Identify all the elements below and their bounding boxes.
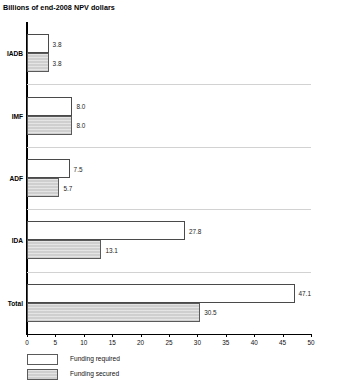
x-axis-tick-label: 25: [165, 339, 172, 346]
bar-value-label: 3.8: [53, 40, 62, 47]
bar-chart: Billions of end-2008 NPV dollars IADB3.8…: [0, 0, 346, 390]
bar-value-label: 30.5: [204, 309, 216, 316]
y-axis-category-label: IDA: [12, 237, 23, 244]
group-separator: [27, 209, 311, 210]
bar-imf-required: [27, 97, 72, 116]
x-axis-tick-label: 45: [279, 339, 286, 346]
y-axis-category-label: IADB: [7, 50, 23, 57]
bar-iadb-required: [27, 34, 49, 53]
x-axis-tick: [226, 334, 227, 337]
bar-value-label: 3.8: [53, 59, 62, 66]
plot-area: IADB3.83.8IMF8.08.0ADF7.55.7IDA27.813.1T…: [27, 22, 311, 334]
x-axis-tick: [197, 334, 198, 337]
bar-total-secured: [27, 303, 200, 322]
x-axis-tick-label: 10: [80, 339, 87, 346]
x-axis-tick-label: 40: [251, 339, 258, 346]
x-axis-tick-label: 35: [222, 339, 229, 346]
x-axis-tick-label: 15: [109, 339, 116, 346]
x-axis-tick: [169, 334, 170, 337]
legend-swatch-secured: [27, 369, 58, 380]
y-axis-category-label: ADF: [9, 175, 23, 182]
y-axis-category-label: Total: [8, 299, 23, 306]
x-axis-tick: [141, 334, 142, 337]
group-separator: [27, 147, 311, 148]
bar-value-label: 8.0: [76, 122, 85, 129]
group-separator: [27, 272, 311, 273]
bar-ida-secured: [27, 240, 101, 259]
legend-item: Funding required: [27, 353, 207, 368]
legend-label: Funding secured: [70, 370, 119, 377]
x-axis-tick-label: 0: [25, 339, 29, 346]
x-axis-tick: [254, 334, 255, 337]
x-axis-tick: [112, 334, 113, 337]
x-axis-tick-label: 30: [194, 339, 201, 346]
chart-title: Billions of end-2008 NPV dollars: [3, 3, 115, 12]
bar-imf-secured: [27, 116, 72, 135]
bar-iadb-secured: [27, 53, 49, 72]
x-axis-tick: [283, 334, 284, 337]
legend-swatch-required: [27, 354, 58, 365]
x-axis-tick: [55, 334, 56, 337]
bar-adf-required: [27, 159, 70, 178]
legend-label: Funding required: [70, 355, 120, 362]
legend-item: Funding secured: [27, 368, 207, 383]
y-axis-category-label: IMF: [12, 112, 23, 119]
x-axis-tick: [84, 334, 85, 337]
chart-legend: Funding requiredFunding secured: [27, 353, 207, 383]
x-axis-tick: [311, 334, 312, 337]
x-axis-tick-label: 5: [54, 339, 58, 346]
x-axis-tick-label: 50: [307, 339, 314, 346]
bar-value-label: 5.7: [63, 184, 72, 191]
bar-value-label: 13.1: [105, 246, 117, 253]
bar-adf-secured: [27, 178, 59, 197]
bar-value-label: 47.1: [299, 290, 311, 297]
bar-value-label: 7.5: [74, 165, 83, 172]
bar-ida-required: [27, 221, 185, 240]
x-axis-tick: [27, 334, 28, 337]
group-separator: [27, 84, 311, 85]
bar-value-label: 8.0: [76, 103, 85, 110]
x-axis-tick-label: 20: [137, 339, 144, 346]
bar-value-label: 27.8: [189, 227, 201, 234]
bar-total-required: [27, 284, 295, 303]
